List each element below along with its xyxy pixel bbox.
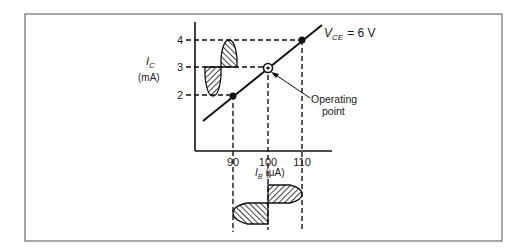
svg-text:90: 90 (227, 156, 239, 168)
annotation-line-2: point (322, 105, 345, 117)
svg-text:4: 4 (177, 34, 183, 46)
data-point-90 (230, 93, 237, 100)
load-line-label: VCE= 6 V (324, 26, 376, 42)
y-axis-label: IC (mA) (138, 55, 160, 83)
data-point-110 (299, 37, 306, 44)
svg-text:110: 110 (293, 156, 311, 168)
transistor-transfer-diagram: 4 3 2 IC (mA) VCE= 6 V Operating point (0, 0, 524, 251)
output-waveform (205, 40, 237, 96)
operating-point-arrow (271, 72, 310, 98)
svg-text:IC: IC (146, 55, 155, 70)
svg-text:3: 3 (177, 61, 183, 73)
y-tick-labels: 4 3 2 (177, 34, 183, 101)
svg-text:(mA): (mA) (138, 72, 160, 83)
input-waveform (233, 185, 302, 224)
x-axis-label: IB(μA) (255, 167, 285, 180)
operating-point (264, 64, 273, 73)
annotation-line-1: Operating (311, 93, 357, 105)
svg-text:2: 2 (177, 89, 183, 101)
